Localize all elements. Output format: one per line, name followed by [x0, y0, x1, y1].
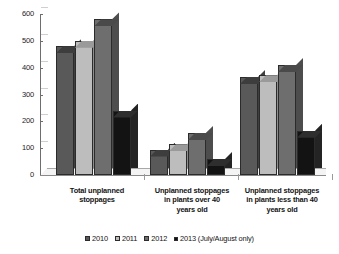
y-axis-tick-label: 0	[8, 171, 34, 179]
bar-front-face	[75, 41, 93, 175]
legend-label: 2012	[151, 234, 167, 243]
y-axis-tick-label: 300	[8, 91, 34, 99]
legend-label: 2011	[122, 234, 137, 243]
bar-2013-cat2	[207, 159, 225, 175]
bar-2012-cat2	[188, 133, 206, 175]
bar-group	[56, 14, 144, 175]
category-label-line: years old	[144, 205, 240, 214]
bar-front-face	[56, 46, 74, 175]
category-label-line: stoppages	[49, 195, 145, 204]
bar-2011-cat2	[169, 144, 187, 175]
bar-2012-cat3	[278, 65, 296, 175]
bar-side-face	[315, 124, 322, 168]
legend-label: 2013 (July/August only)	[180, 234, 254, 243]
bar-front-face	[259, 75, 277, 175]
legend-swatch-icon	[115, 236, 120, 241]
y-axis-tick-label: 600	[8, 10, 34, 18]
legend-swatch-icon	[85, 236, 90, 241]
bar-2010-cat1	[56, 46, 74, 175]
category-label: Unplanned stoppagesin plants over 40year…	[144, 186, 240, 214]
category-label-line: in plants less than 40	[234, 195, 330, 204]
category-label-line: Unplanned stoppages	[234, 186, 330, 195]
floor-front-edge	[40, 175, 326, 176]
legend-label: 2010	[92, 234, 108, 243]
legend-item-2010[interactable]: 2010	[85, 234, 108, 243]
legend-item-2011[interactable]: 2011	[115, 234, 137, 243]
y-axis-tick-label: 400	[8, 64, 34, 72]
legend-swatch-icon	[174, 237, 178, 241]
bar-2013-cat3	[297, 131, 315, 175]
y-axis-tick-label: 500	[8, 37, 34, 45]
y-axis-depth-tick	[41, 7, 48, 8]
legend-item-2013[interactable]: 2013 (July/August only)	[174, 234, 254, 243]
category-separator	[332, 174, 333, 180]
legend-item-2012[interactable]: 2012	[144, 234, 167, 243]
category-labels: Total unplannedstoppagesUnplanned stoppa…	[40, 186, 332, 222]
bar-front-face	[94, 19, 112, 175]
y-axis-tick-label: 200	[8, 117, 34, 125]
bar-2010-cat3	[240, 77, 258, 175]
category-label-line: in plants over 40	[144, 195, 240, 204]
bar-group	[240, 14, 328, 175]
bar-groups	[40, 14, 326, 175]
category-label: Unplanned stoppagesin plants less than 4…	[234, 186, 330, 214]
bar-2012-cat1	[94, 19, 112, 175]
bar-2011-cat1	[75, 41, 93, 175]
bar-front-face	[113, 111, 131, 175]
legend-swatch-icon	[144, 236, 149, 241]
category-separator	[144, 174, 145, 180]
bar-group	[150, 14, 238, 175]
category-label-line: Total unplanned	[49, 186, 145, 195]
bar-front-face	[240, 77, 258, 175]
chart-legend: 2010201120122013 (July/August only)	[0, 234, 339, 243]
category-separator	[238, 174, 239, 180]
bar-chart: 0100200300400500600 Total unplannedstopp…	[0, 0, 339, 254]
category-label-line: Unplanned stoppages	[144, 186, 240, 195]
y-axis-tick-label: 100	[8, 144, 34, 152]
category-label-line: years old	[234, 205, 330, 214]
bar-2011-cat3	[259, 75, 277, 175]
category-label: Total unplannedstoppages	[49, 186, 145, 205]
bar-2010-cat2	[150, 150, 168, 175]
bar-2013-cat1	[113, 111, 131, 175]
bar-front-face	[278, 65, 296, 175]
